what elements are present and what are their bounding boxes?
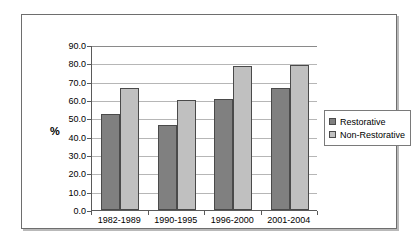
y-axis-tick-mark <box>87 83 91 84</box>
legend-label: Restorative <box>340 117 386 127</box>
y-axis-tick-labels: 0.010.020.030.040.050.060.070.080.090.0 <box>52 46 88 211</box>
chart-legend: RestorativeNon-Restorative <box>324 110 411 146</box>
y-axis-tick-label: 10.0 <box>68 188 86 197</box>
x-axis-tick-label: 2001-2004 <box>267 215 310 225</box>
y-axis-tick-mark <box>87 193 91 194</box>
y-axis-tick-label: 0.0 <box>73 207 86 216</box>
bar-restorative-2001-2004 <box>271 88 290 210</box>
gridline <box>92 64 317 65</box>
x-axis-tick-mark <box>204 211 205 215</box>
legend-swatch-icon <box>329 131 336 138</box>
y-axis-tick-mark <box>87 156 91 157</box>
legend-item-restorative[interactable]: Restorative <box>329 115 405 128</box>
y-axis-tick-label: 30.0 <box>68 152 86 161</box>
y-axis-tick-mark <box>87 119 91 120</box>
legend-label: Non-Restorative <box>340 130 405 140</box>
bar-non-restorative-1990-1995 <box>177 100 196 210</box>
y-axis-tick-label: 70.0 <box>68 78 86 87</box>
y-axis-tick-mark <box>87 101 91 102</box>
y-axis-tick-label: 40.0 <box>68 133 86 142</box>
y-axis-tick-mark <box>87 174 91 175</box>
bar-restorative-1996-2000 <box>214 99 233 210</box>
bar-restorative-1990-1995 <box>158 125 177 210</box>
y-axis-tick-label: 90.0 <box>68 42 86 51</box>
gridline <box>92 46 317 47</box>
plot-area <box>91 46 317 211</box>
x-axis-tick-labels: 1982-19891990-19951996-20002001-2004 <box>91 215 317 229</box>
y-axis-tick-mark <box>87 46 91 47</box>
bar-non-restorative-2001-2004 <box>290 65 309 210</box>
bar-restorative-1982-1989 <box>101 114 120 210</box>
y-axis-tick-label: 60.0 <box>68 97 86 106</box>
legend-item-non-restorative[interactable]: Non-Restorative <box>329 128 405 141</box>
gridline <box>92 83 317 84</box>
x-axis-tick-mark <box>91 211 92 215</box>
x-axis-tick-mark <box>261 211 262 215</box>
y-axis-tick-mark <box>87 138 91 139</box>
chart-frame: % 0.010.020.030.040.050.060.070.080.090.… <box>21 14 397 229</box>
y-axis-tick-label: 50.0 <box>68 115 86 124</box>
bar-non-restorative-1996-2000 <box>233 66 252 210</box>
x-axis-tick-mark <box>148 211 149 215</box>
y-axis-tick-mark <box>87 64 91 65</box>
bar-non-restorative-1982-1989 <box>120 88 139 210</box>
x-axis-tick-label: 1990-1995 <box>154 215 197 225</box>
legend-swatch-icon <box>329 118 336 125</box>
x-axis-tick-label: 1996-2000 <box>211 215 254 225</box>
x-axis-tick-mark <box>317 211 318 215</box>
x-axis-tick-label: 1982-1989 <box>98 215 141 225</box>
y-axis-tick-label: 20.0 <box>68 170 86 179</box>
y-axis-tick-label: 80.0 <box>68 60 86 69</box>
